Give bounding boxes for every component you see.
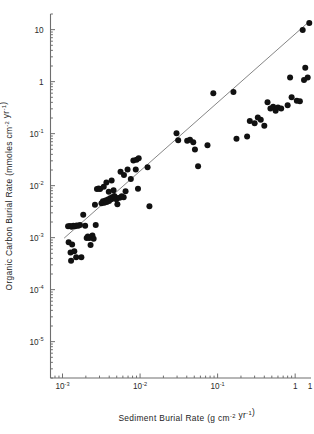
- data-point: [278, 105, 284, 111]
- data-point: [91, 236, 97, 242]
- x-axis-title: Sediment Burial Rate (g cm-2 yr-1): [118, 407, 255, 423]
- y-tick-label: 1: [39, 78, 44, 87]
- data-point: [92, 202, 98, 208]
- data-point: [306, 20, 312, 26]
- x-axis-title-text: Sediment Burial Rate (g cm-2 yr-1): [118, 407, 255, 423]
- data-point: [78, 254, 84, 260]
- plot-axes: [51, 14, 312, 378]
- data-point: [69, 241, 75, 247]
- data-point: [103, 180, 109, 186]
- data-point: [190, 139, 196, 145]
- data-point: [265, 99, 271, 105]
- data-points: [65, 20, 312, 264]
- x-tick-label: 10-2: [133, 381, 147, 391]
- data-point: [133, 166, 139, 172]
- data-point: [287, 75, 293, 81]
- x-tick-label: 1: [293, 382, 298, 391]
- data-point: [174, 130, 180, 136]
- data-point: [244, 134, 250, 140]
- data-point: [125, 166, 131, 172]
- scatter-plot-figure: 10110-110-210-310-410-5 10-310-210-111 S…: [0, 0, 314, 434]
- data-point: [135, 186, 141, 192]
- data-point: [300, 27, 306, 33]
- data-point: [297, 98, 303, 104]
- y-axis-title: Organic Carbon Burial Rate (mmoles cm-2 …: [0, 102, 14, 291]
- data-point: [261, 123, 267, 129]
- data-point: [302, 65, 308, 71]
- data-point: [77, 222, 83, 228]
- x-tick-label: 10-1: [211, 381, 225, 391]
- data-point: [192, 147, 198, 153]
- data-point: [121, 172, 127, 178]
- data-point: [252, 120, 258, 126]
- data-point: [111, 187, 117, 193]
- data-point: [73, 254, 79, 260]
- x-axis-ticks: [51, 374, 296, 379]
- data-point: [88, 242, 94, 248]
- data-point: [128, 176, 134, 182]
- y-tick-label: 10-4: [29, 284, 43, 294]
- data-point: [68, 258, 74, 264]
- data-point: [175, 137, 181, 143]
- data-point: [230, 89, 236, 95]
- y-axis-ticks: [51, 14, 56, 378]
- data-point: [145, 164, 151, 170]
- chart-canvas: 10110-110-210-310-410-5 10-310-210-111 S…: [0, 0, 314, 434]
- data-point: [109, 178, 115, 184]
- y-tick-label: 10-2: [29, 180, 43, 190]
- y-axis-tick-labels: 10110-110-210-310-410-5: [29, 26, 44, 347]
- data-point: [289, 94, 295, 100]
- x-tick-label-end: 1: [308, 382, 313, 391]
- data-point: [210, 90, 216, 96]
- data-point: [204, 142, 210, 148]
- y-tick-label: 10: [34, 26, 44, 35]
- data-point: [258, 117, 264, 123]
- x-tick-label: 10-3: [55, 381, 69, 391]
- data-point: [82, 223, 88, 229]
- data-point: [121, 194, 127, 200]
- data-point: [233, 136, 239, 142]
- data-point: [285, 102, 291, 108]
- data-point: [80, 212, 86, 218]
- data-point: [136, 155, 142, 161]
- data-point: [114, 201, 120, 207]
- y-axis-title-text: Organic Carbon Burial Rate (mmoles cm-2 …: [0, 102, 14, 291]
- y-tick-label: 10-1: [29, 128, 43, 138]
- data-point: [123, 188, 129, 194]
- data-point: [305, 75, 311, 81]
- y-tick-label: 10-5: [29, 336, 43, 346]
- x-axis-tick-labels: 10-310-210-111: [55, 381, 312, 391]
- data-point: [71, 248, 77, 254]
- data-point: [146, 203, 152, 209]
- data-point: [93, 222, 99, 228]
- data-point: [195, 163, 201, 169]
- y-tick-label: 10-3: [29, 232, 43, 242]
